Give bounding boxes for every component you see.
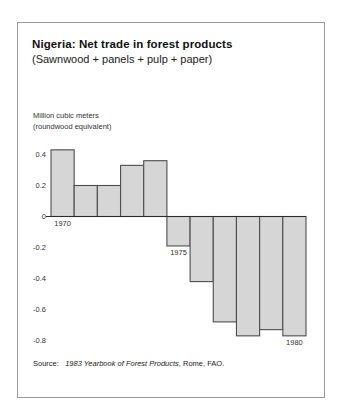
figure-frame: Nigeria: Net trade in forest products (S… bbox=[17, 22, 325, 398]
bar-1980 bbox=[283, 217, 306, 336]
y-axis-tick-label: -0.2 bbox=[33, 243, 46, 252]
y-axis-tick-label: 0.2 bbox=[36, 181, 46, 190]
bar-1975 bbox=[167, 217, 190, 246]
bar-1974 bbox=[144, 161, 167, 217]
bar-series bbox=[51, 150, 306, 336]
bar-chart-svg: 0.40.20-0.2-0.4-0.6-0.8 197019751980 bbox=[18, 23, 326, 399]
chart-plot-area: 0.40.20-0.2-0.4-0.6-0.8 197019751980 bbox=[18, 23, 326, 399]
x-axis-tick-label-1970: 1970 bbox=[54, 219, 71, 228]
bar-1973 bbox=[121, 165, 144, 216]
bar-1978 bbox=[236, 217, 259, 336]
y-axis-tick-label: 0 bbox=[42, 212, 46, 221]
source-label: Source: bbox=[33, 359, 59, 368]
bar-1977 bbox=[213, 217, 236, 322]
x-axis-tick-label-1975: 1975 bbox=[170, 248, 187, 257]
source-tail: , Rome, FAO. bbox=[179, 359, 224, 368]
x-axis-tick-label-1980: 1980 bbox=[286, 338, 303, 347]
y-axis-tick-label: -0.4 bbox=[33, 274, 46, 283]
y-axis-tick-label: -0.8 bbox=[33, 336, 46, 345]
bar-1971 bbox=[74, 186, 97, 217]
y-axis-tick-labels: 0.40.20-0.2-0.4-0.6-0.8 bbox=[33, 150, 46, 345]
y-axis-tick-label: 0.4 bbox=[36, 150, 46, 159]
bar-1972 bbox=[97, 186, 120, 217]
source-publication-title: 1983 Yearbook of Forest Products bbox=[65, 359, 179, 368]
bar-1976 bbox=[190, 217, 213, 282]
source-note: Source: 1983 Yearbook of Forest Products… bbox=[33, 359, 224, 368]
bar-1970 bbox=[51, 150, 74, 217]
bar-1979 bbox=[260, 217, 283, 330]
y-axis-tick-label: -0.6 bbox=[33, 305, 46, 314]
